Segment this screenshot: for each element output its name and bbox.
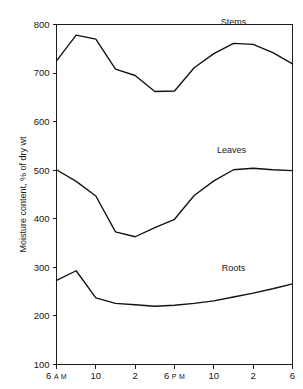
y-tick-label-700: 700 [34, 67, 50, 78]
y-tick-label-800: 800 [34, 19, 50, 30]
chart-figure: 1002003004005006007008006 A M1026 P M102… [0, 0, 303, 389]
x-tick-label-5: 2 [251, 370, 256, 381]
x-tick-label-2: 2 [133, 370, 138, 381]
series-label-roots: Roots [222, 263, 246, 273]
x-tick-label-3: 6 P M [164, 370, 185, 381]
y-tick-label-200: 200 [34, 310, 50, 321]
x-tick-label-0: 6 A M [46, 370, 67, 381]
line-chart-svg: 1002003004005006007008006 A M1026 P M102… [0, 0, 303, 389]
plot-frame [57, 25, 293, 365]
y-tick-label-500: 500 [34, 165, 50, 176]
y-tick-label-300: 300 [34, 262, 50, 273]
y-axis-title: Moisture content, % of dry wt [18, 136, 28, 253]
x-tick-label-1: 10 [91, 370, 102, 381]
x-tick-label-4: 10 [209, 370, 220, 381]
x-tick-label-6: 6 [290, 370, 295, 381]
series-label-stems: Stems [221, 17, 247, 27]
y-tick-label-100: 100 [34, 359, 50, 370]
y-tick-label-600: 600 [34, 116, 50, 127]
y-tick-label-400: 400 [34, 213, 50, 224]
series-line-leaves [57, 168, 293, 236]
series-line-roots [57, 271, 293, 306]
series-line-stems [57, 35, 293, 91]
series-label-leaves: Leaves [217, 145, 247, 155]
